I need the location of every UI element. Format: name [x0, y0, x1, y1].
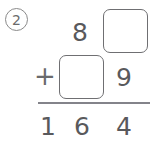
problem-number-badge: 2 — [5, 8, 28, 31]
blank-box-addend-top-ones[interactable] — [103, 9, 148, 53]
addend-top-tens-digit: 8 — [66, 20, 94, 45]
addend-bottom-ones-digit: 9 — [110, 65, 138, 90]
addition-worksheet-problem: 2 8 + 9 1 6 4 — [0, 0, 152, 149]
sum-tens-digit: 6 — [68, 114, 96, 139]
sum-ones-digit: 4 — [110, 114, 138, 139]
sum-rule-line — [38, 102, 150, 104]
sum-hundreds-digit: 1 — [34, 114, 62, 139]
blank-box-addend-bottom-tens[interactable] — [59, 55, 104, 99]
plus-operator: + — [34, 63, 56, 89]
